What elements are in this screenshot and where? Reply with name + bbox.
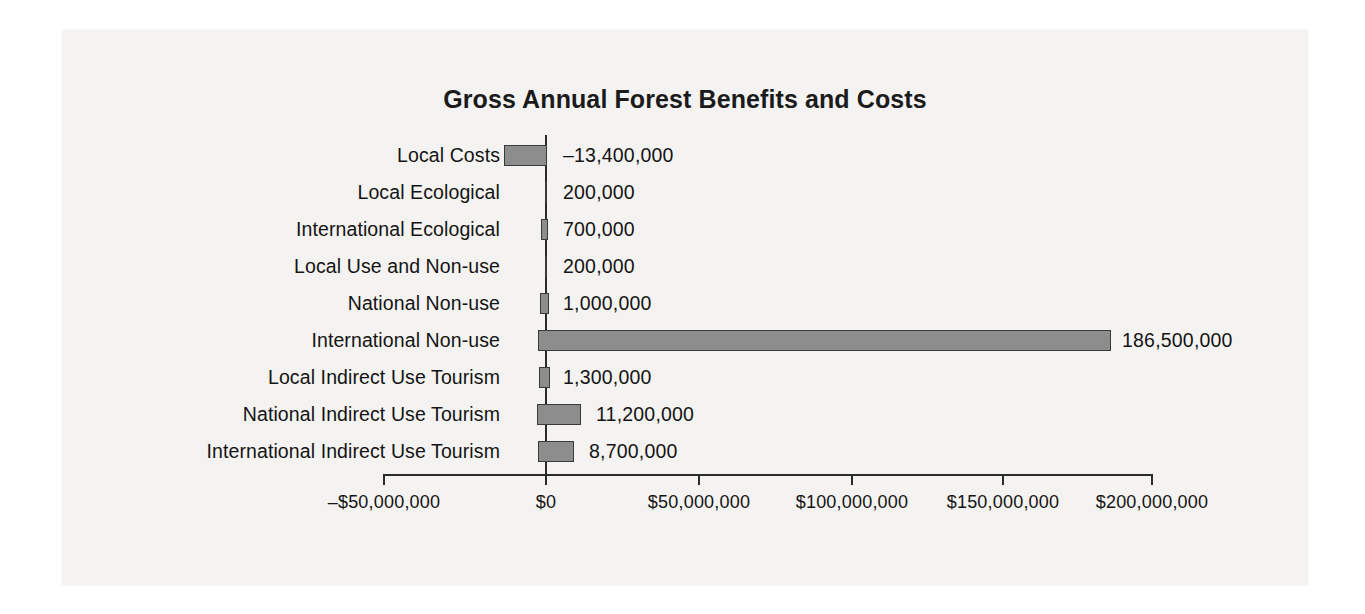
value-label: 186,500,000 — [1122, 322, 1233, 359]
bar-row: Local Costs –13,400,000 — [62, 137, 1308, 174]
bar-row: Local Use and Non-use 200,000 — [62, 248, 1308, 285]
x-axis-line — [383, 474, 1151, 476]
bar-row: International Indirect Use Tourism 8,700… — [62, 433, 1308, 470]
bar-national-indirect-use-tourism — [537, 404, 581, 425]
bar-row: Local Ecological 200,000 — [62, 174, 1308, 211]
x-axis-tick-label: $100,000,000 — [796, 492, 909, 513]
chart-panel: Gross Annual Forest Benefits and Costs L… — [62, 30, 1308, 585]
value-label: 8,700,000 — [589, 433, 678, 470]
bar-international-non-use — [538, 330, 1111, 351]
category-label: Local Costs — [397, 137, 500, 174]
bar-international-indirect-use-tourism — [538, 441, 574, 462]
value-label: 200,000 — [563, 174, 635, 211]
x-axis-tick-label: –$50,000,000 — [328, 492, 441, 513]
bar-row: National Non-use 1,000,000 — [62, 285, 1308, 322]
bar-national-non-use — [540, 293, 549, 314]
x-axis-tick-label: $150,000,000 — [947, 492, 1060, 513]
plot-area: Local Costs –13,400,000 Local Ecological… — [62, 30, 1308, 585]
value-label: 11,200,000 — [596, 396, 694, 433]
bar-international-ecological — [541, 219, 548, 240]
category-label: International Indirect Use Tourism — [206, 433, 500, 470]
category-label: National Non-use — [348, 285, 500, 322]
category-label: Local Ecological — [357, 174, 500, 211]
x-axis-tick — [851, 474, 853, 485]
x-axis-tick-label: $50,000,000 — [648, 492, 750, 513]
bar-row: Local Indirect Use Tourism 1,300,000 — [62, 359, 1308, 396]
bar-row: International Ecological 700,000 — [62, 211, 1308, 248]
bar-local-costs — [504, 145, 547, 166]
value-label: 1,300,000 — [563, 359, 652, 396]
x-axis-tick-label: $200,000,000 — [1096, 492, 1209, 513]
category-label: International Non-use — [311, 322, 500, 359]
category-label: National Indirect Use Tourism — [243, 396, 500, 433]
value-label: 700,000 — [563, 211, 635, 248]
x-axis-tick — [545, 474, 547, 485]
x-axis-tick — [1002, 474, 1004, 485]
x-axis-tick — [1151, 474, 1153, 485]
bar-local-use-and-non-use — [545, 256, 547, 277]
bar-local-ecological — [545, 182, 547, 203]
bar-row: International Non-use 186,500,000 — [62, 322, 1308, 359]
category-label: Local Indirect Use Tourism — [268, 359, 500, 396]
value-label: 1,000,000 — [563, 285, 652, 322]
x-axis-tick-label: $0 — [536, 492, 556, 513]
x-axis-tick — [383, 474, 385, 485]
bar-row: National Indirect Use Tourism 11,200,000 — [62, 396, 1308, 433]
bar-local-indirect-use-tourism — [539, 367, 550, 388]
category-label: International Ecological — [296, 211, 500, 248]
x-axis-tick — [698, 474, 700, 485]
value-label: 200,000 — [563, 248, 635, 285]
value-label: –13,400,000 — [563, 137, 674, 174]
category-label: Local Use and Non-use — [294, 248, 500, 285]
